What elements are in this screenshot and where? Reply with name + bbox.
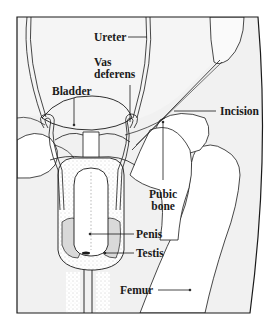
label-testis: Testis (136, 247, 164, 259)
diagram-artwork (0, 0, 279, 328)
label-pubic-bone-line2: bone (149, 200, 177, 212)
label-pubic-bone-line1: Pubic (149, 188, 177, 200)
label-ureter: Ureter (94, 31, 126, 43)
label-incision: Incision (220, 105, 259, 117)
label-vas-deferens: Vas deferens (94, 56, 135, 80)
label-vas-deferens-line2: deferens (94, 68, 135, 80)
label-bladder: Bladder (52, 85, 92, 97)
label-femur: Femur (120, 284, 153, 296)
pubic-symphysis (83, 132, 99, 157)
urethral-meatus (82, 252, 90, 255)
label-vas-deferens-line1: Vas (94, 56, 135, 68)
label-pubic-bone: Pubic bone (149, 188, 177, 212)
anatomy-diagram: Ureter Vas deferens Bladder Incision Pub… (0, 0, 279, 328)
label-penis: Penis (136, 228, 162, 240)
